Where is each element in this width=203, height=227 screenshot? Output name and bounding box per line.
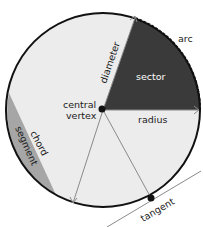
tangent-label: tangent xyxy=(139,195,177,223)
tangent-point xyxy=(148,195,155,202)
sector-label: sector xyxy=(136,71,166,82)
central-vertex-label-line2: vertex xyxy=(66,110,97,121)
central-vertex-point xyxy=(99,106,106,113)
radius-label: radius xyxy=(138,114,167,125)
arc-label: arc xyxy=(178,33,193,44)
central-vertex-label-line1: central xyxy=(63,99,96,110)
circle-parts-diagram: arc sector diameter radius central verte… xyxy=(0,0,203,227)
